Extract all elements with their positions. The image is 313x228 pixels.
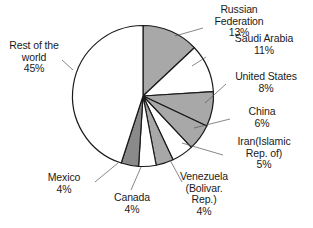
label-value: 45% [2, 63, 66, 75]
slice-label-rest-of-world: Rest of the world 45% [2, 40, 66, 75]
label-value: 4% [167, 206, 241, 218]
slice-label-saudi-arabia: Saudi Arabia 11% [222, 33, 306, 56]
leader-line-mexico [95, 163, 118, 182]
slice-label-china: China 6% [231, 106, 293, 129]
label-value: 4% [100, 204, 164, 216]
pie-slices-group [72, 25, 213, 166]
label-value: 4% [32, 184, 96, 196]
label-line: Saudi Arabia [222, 33, 306, 45]
label-value: 5% [224, 159, 304, 171]
label-line: Venezuela [167, 171, 241, 183]
slice-label-iran: Iran(Islamic Rep. of) 5% [224, 136, 304, 171]
label-line: Rep.) [167, 194, 241, 206]
leader-line-canada [131, 167, 141, 190]
slice-label-united-states: United States 8% [223, 71, 309, 94]
label-line: Canada [100, 192, 164, 204]
label-line: China [231, 106, 293, 118]
label-value: 8% [223, 83, 309, 95]
label-line: Iran(Islamic [224, 136, 304, 148]
slice-label-venezuela: Venezuela (Bolivar. Rep.) 4% [167, 171, 241, 217]
slice-label-canada: Canada 4% [100, 192, 164, 215]
label-value: 6% [231, 118, 293, 130]
label-line: United States [223, 71, 309, 83]
pie-chart: Russian Federation 13% Saudi Arabia 11% … [0, 0, 313, 228]
label-value: 11% [222, 45, 306, 57]
label-line: Rest of the [2, 40, 66, 52]
slice-label-mexico: Mexico 4% [32, 172, 96, 195]
label-line: Mexico [32, 172, 96, 184]
label-line: Russian [196, 4, 282, 16]
